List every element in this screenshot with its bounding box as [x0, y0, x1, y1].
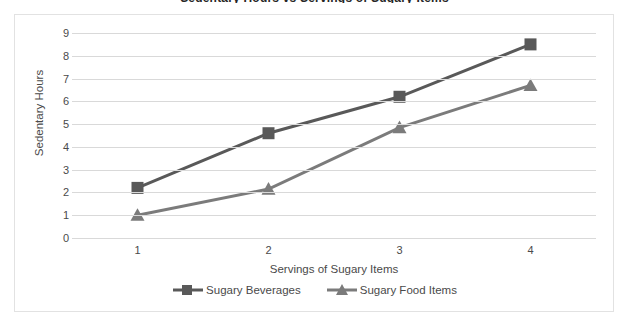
y-tick-label: 2: [63, 186, 69, 198]
gridline: [72, 101, 596, 102]
legend-item-1[interactable]: Sugary Beverages: [173, 283, 301, 297]
y-axis-ticks: 0123456789: [29, 33, 69, 238]
gridline: [72, 79, 596, 80]
square-marker: [525, 38, 537, 50]
legend-label: Sugary Food Items: [360, 284, 457, 296]
x-tick-label: 2: [265, 244, 271, 256]
plot-area: [72, 33, 596, 238]
y-tick-label: 5: [63, 118, 69, 130]
gridline: [72, 56, 596, 57]
legend-item-2[interactable]: Sugary Food Items: [327, 283, 457, 297]
square-marker: [173, 283, 203, 297]
y-tick-label: 9: [63, 27, 69, 39]
x-axis-label: Servings of Sugary Items: [72, 263, 596, 275]
series-line: [138, 44, 531, 188]
triangle-marker: [524, 78, 538, 91]
gridline: [72, 33, 596, 34]
y-tick-label: 7: [63, 73, 69, 85]
chart-frame: Sedentary Hours 0123456789 1234 Servings…: [14, 14, 614, 312]
gridline: [72, 192, 596, 193]
y-tick-label: 1: [63, 209, 69, 221]
series-layer: [72, 33, 596, 238]
chart-legend: Sugary BeveragesSugary Food Items: [15, 283, 615, 297]
x-axis-ticks: 1234: [72, 244, 596, 260]
y-tick-label: 8: [63, 50, 69, 62]
series-2: [131, 78, 538, 220]
triangle-marker: [327, 283, 357, 297]
gridline: [72, 170, 596, 171]
gridline: [72, 124, 596, 125]
x-tick-label: 3: [396, 244, 402, 256]
y-tick-label: 4: [63, 141, 69, 153]
chart-title-clipped: Sedentary Hours vs Servings of Sugary It…: [0, 0, 629, 3]
y-tick-label: 0: [63, 232, 69, 244]
y-tick-label: 6: [63, 95, 69, 107]
gridline: [72, 215, 596, 216]
y-tick-label: 3: [63, 164, 69, 176]
square-marker: [263, 127, 275, 139]
series-line: [138, 85, 531, 215]
legend-label: Sugary Beverages: [206, 284, 301, 296]
gridline: [72, 238, 596, 239]
x-tick-label: 1: [134, 244, 140, 256]
x-tick-label: 4: [527, 244, 533, 256]
gridline: [72, 147, 596, 148]
